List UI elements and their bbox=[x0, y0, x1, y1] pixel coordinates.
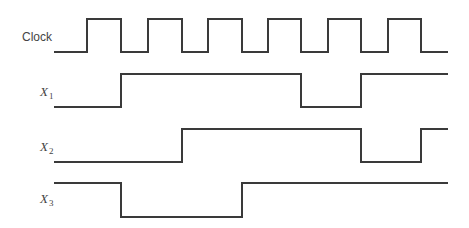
signal-x2: X2 bbox=[39, 129, 448, 162]
signal-clock: Clock bbox=[22, 19, 448, 52]
x3-label: X3 bbox=[39, 191, 54, 208]
x2-label: X2 bbox=[39, 139, 53, 156]
clock-label: Clock bbox=[22, 30, 53, 44]
x3-waveform bbox=[54, 183, 448, 217]
timing-diagram: Clock X1 X2 X3 bbox=[0, 0, 469, 228]
x2-waveform bbox=[54, 129, 448, 162]
signal-x3: X3 bbox=[39, 183, 448, 217]
clock-waveform bbox=[54, 19, 448, 52]
x1-label: X1 bbox=[39, 84, 53, 101]
x1-waveform bbox=[54, 74, 448, 107]
signal-x1: X1 bbox=[39, 74, 448, 107]
